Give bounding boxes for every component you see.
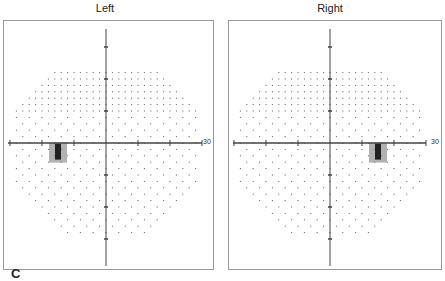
left-field-panel: C 30 <box>3 20 214 270</box>
right-title: Right <box>290 2 370 14</box>
left-field-plot <box>4 21 215 271</box>
right-field-panel: 30 <box>228 20 442 270</box>
right-field-plot <box>229 21 443 271</box>
panel-label: C <box>11 266 20 281</box>
left-title: Left <box>65 2 145 14</box>
x-tick-30: 30 <box>431 138 439 145</box>
x-tick-30: 30 <box>203 138 211 145</box>
